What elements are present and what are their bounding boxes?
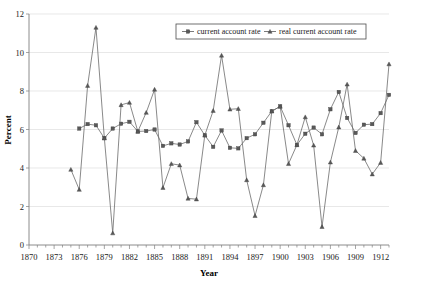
y-tick-label: 6 bbox=[20, 125, 24, 135]
chart-legend: current account ratereal current account… bbox=[176, 24, 366, 39]
data-point-marker bbox=[329, 108, 332, 111]
x-axis-ticks: 1870187318761879188218851888189118941897… bbox=[21, 245, 390, 262]
data-point-marker bbox=[170, 142, 173, 145]
x-tick-label: 1885 bbox=[146, 252, 163, 262]
data-point-marker bbox=[345, 116, 348, 119]
legend-label: real current account rate bbox=[279, 27, 357, 36]
y-tick-label: 8 bbox=[20, 86, 24, 96]
data-point-marker bbox=[128, 120, 131, 123]
data-point-marker bbox=[337, 90, 340, 93]
x-tick-label: 1894 bbox=[221, 252, 239, 262]
data-point-marker bbox=[78, 127, 81, 130]
data-point-marker bbox=[362, 123, 365, 126]
data-point-marker bbox=[304, 132, 307, 135]
x-tick-label: 1903 bbox=[297, 252, 314, 262]
data-point-marker bbox=[195, 120, 198, 123]
x-tick-label: 1879 bbox=[96, 252, 113, 262]
y-axis-ticks: 024681012 bbox=[16, 9, 30, 250]
data-point-marker bbox=[186, 30, 189, 33]
y-axis-title: Percent bbox=[3, 115, 13, 144]
data-point-marker bbox=[253, 133, 256, 136]
data-point-marker bbox=[161, 144, 164, 147]
data-point-marker bbox=[211, 145, 214, 148]
data-point-marker bbox=[228, 146, 231, 149]
legend-label: current account rate bbox=[197, 27, 261, 36]
data-point-marker bbox=[287, 124, 290, 127]
line-chart: 024681012 187018731876187918821885188818… bbox=[0, 0, 421, 285]
data-point-marker bbox=[354, 131, 357, 134]
x-tick-label: 1906 bbox=[322, 252, 339, 262]
x-tick-label: 1870 bbox=[21, 252, 38, 262]
data-point-marker bbox=[111, 127, 114, 130]
x-tick-label: 1909 bbox=[347, 252, 364, 262]
x-tick-label: 1882 bbox=[121, 252, 138, 262]
data-point-marker bbox=[262, 121, 265, 124]
data-point-marker bbox=[312, 126, 315, 129]
x-tick-label: 1873 bbox=[46, 252, 63, 262]
y-tick-label: 10 bbox=[16, 48, 25, 58]
x-tick-label: 1891 bbox=[196, 252, 213, 262]
data-point-marker bbox=[237, 147, 240, 150]
data-point-marker bbox=[186, 140, 189, 143]
data-point-marker bbox=[145, 129, 148, 132]
y-tick-label: 2 bbox=[20, 202, 24, 212]
data-point-marker bbox=[94, 124, 97, 127]
x-tick-label: 1876 bbox=[71, 252, 88, 262]
data-point-marker bbox=[245, 136, 248, 139]
x-tick-label: 1912 bbox=[372, 252, 389, 262]
data-point-marker bbox=[387, 93, 390, 96]
x-axis-title: Year bbox=[200, 268, 218, 278]
y-tick-label: 4 bbox=[20, 163, 25, 173]
data-point-marker bbox=[379, 111, 382, 114]
data-point-marker bbox=[178, 143, 181, 146]
data-point-marker bbox=[86, 122, 89, 125]
data-point-marker bbox=[320, 133, 323, 136]
x-tick-label: 1897 bbox=[247, 252, 264, 262]
data-point-marker bbox=[371, 122, 374, 125]
data-point-marker bbox=[153, 128, 156, 131]
x-tick-label: 1888 bbox=[171, 252, 188, 262]
data-point-marker bbox=[220, 129, 223, 132]
x-tick-label: 1900 bbox=[272, 252, 289, 262]
chart-container: 024681012 187018731876187918821885188818… bbox=[0, 0, 421, 285]
y-tick-label: 0 bbox=[20, 240, 24, 250]
y-tick-label: 12 bbox=[16, 9, 25, 19]
